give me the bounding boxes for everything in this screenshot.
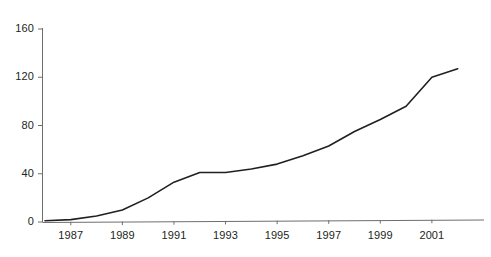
y-tick-label: 80: [0, 119, 34, 131]
axes-group: [43, 28, 485, 223]
y-tick-label: 40: [0, 167, 34, 179]
x-tick-label: 2001: [402, 229, 462, 241]
data-series-group: [45, 69, 458, 221]
chart-plot-area: [0, 0, 491, 257]
x-axis: [43, 220, 485, 223]
data-line-series-0: [45, 69, 458, 221]
line-chart: 04080120160 1987198919911993199519971999…: [0, 0, 491, 257]
y-axis-ticks: [38, 29, 43, 222]
y-tick-label: 160: [0, 22, 34, 34]
y-tick-label: 0: [0, 215, 34, 227]
y-tick-label: 120: [0, 70, 34, 82]
